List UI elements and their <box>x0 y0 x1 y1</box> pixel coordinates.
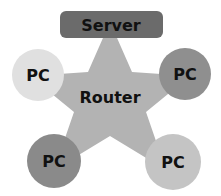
pc-node-bottom-right: PC <box>145 134 201 190</box>
pc-label: PC <box>42 152 65 171</box>
pc-label: PC <box>26 66 49 85</box>
star-topology-diagram: Server PC PC PC PC Router <box>0 0 221 196</box>
pc-label: PC <box>161 153 184 172</box>
pc-label: PC <box>173 65 196 84</box>
router-label: Router <box>79 88 140 107</box>
pc-node-bottom-left: PC <box>27 134 81 188</box>
server-label: Server <box>81 16 141 35</box>
pc-node-top-right: PC <box>159 48 211 100</box>
server-node: Server <box>60 11 163 38</box>
pc-node-top-left: PC <box>12 49 64 101</box>
